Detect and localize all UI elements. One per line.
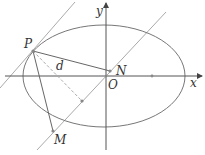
- label-x: x: [190, 76, 197, 90]
- label-P: P: [23, 37, 33, 51]
- point-focus: [151, 75, 154, 78]
- point-foot: [80, 99, 83, 102]
- tangent-line: [0, 2, 75, 88]
- point-N: [108, 69, 111, 72]
- label-y: y: [95, 4, 103, 18]
- label-M: M: [53, 133, 67, 147]
- label-O: O: [108, 78, 118, 92]
- label-N: N: [115, 64, 127, 78]
- ellipse-diagram: P d N O x y M: [0, 0, 205, 155]
- point-O: [105, 75, 107, 77]
- label-d: d: [56, 59, 64, 73]
- segment-PN: [33, 51, 110, 71]
- segment-PM: [33, 51, 53, 131]
